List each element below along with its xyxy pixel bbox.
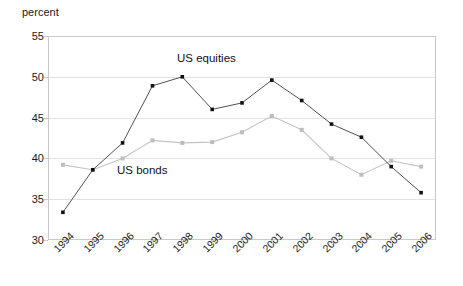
data-point bbox=[270, 78, 274, 82]
data-point bbox=[61, 163, 65, 167]
data-point bbox=[389, 165, 393, 169]
data-point bbox=[180, 141, 184, 145]
data-point bbox=[270, 114, 274, 118]
data-point bbox=[91, 168, 95, 172]
data-point bbox=[240, 101, 244, 105]
data-point bbox=[389, 159, 393, 163]
series-label-us-equities: US equities bbox=[177, 52, 236, 64]
data-point bbox=[151, 138, 155, 142]
data-point bbox=[419, 191, 423, 195]
series-us-bonds bbox=[61, 114, 423, 177]
data-point bbox=[300, 128, 304, 132]
data-point bbox=[121, 156, 125, 160]
series-us-equities bbox=[61, 75, 423, 214]
data-point bbox=[300, 99, 304, 103]
data-series-layer bbox=[0, 0, 463, 286]
data-point bbox=[419, 165, 423, 169]
data-point bbox=[210, 140, 214, 144]
data-point bbox=[330, 122, 334, 126]
data-point bbox=[181, 75, 185, 79]
data-point bbox=[360, 135, 364, 139]
series-line bbox=[63, 77, 421, 213]
data-point bbox=[151, 84, 155, 88]
data-point bbox=[240, 130, 244, 134]
data-point bbox=[61, 211, 65, 215]
series-label-us-bonds: US bonds bbox=[117, 164, 168, 176]
data-point bbox=[330, 156, 334, 160]
chart-container: percent 303540455055 1994199519961997199… bbox=[0, 0, 463, 286]
data-point bbox=[359, 173, 363, 177]
data-point bbox=[121, 141, 125, 145]
data-point bbox=[210, 108, 214, 112]
